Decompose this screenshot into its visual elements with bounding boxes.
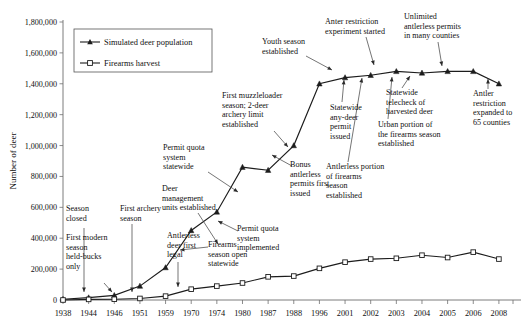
annotation-permit-quota-system-implemented: Permit quota system implemented [237,224,291,253]
legend-label-0: Simulated deer population [104,38,193,47]
y-tick-label: 600,000 [31,203,57,212]
leader-head-statewide-telecheck [406,76,410,81]
x-tick-label: 1944 [80,309,97,318]
x-tick-label: 2004 [414,309,431,318]
data-marker-square [471,250,476,255]
data-marker-square [317,266,322,271]
x-tick-label: 2001 [337,309,354,318]
leader-head-season-closed [82,288,86,292]
x-tick-label: 1996 [311,309,328,318]
data-marker-square [86,297,91,302]
y-axis-label: Number of deer [8,133,18,190]
series-line-1 [63,252,499,300]
data-marker-square [189,287,194,292]
x-tick-label: 1987 [260,309,277,318]
y-tick-label: 1,400,000 [25,80,57,89]
annotation-youth-season-established: Youth season established [262,37,320,56]
annotation-first-muzzleloader-season: First muzzleloader season; 2-deer archer… [222,91,302,129]
y-tick-label: 400,000 [31,234,57,243]
legend[interactable]: Simulated deer populationFirearms harves… [74,29,212,72]
data-marker-square [112,297,117,302]
data-marker-square [343,260,348,265]
annotation-antlerless-portion-firearms: Antlerless portion of firearms season es… [326,162,386,200]
deer-population-chart: 0200,000400,000600,000800,0001,000,0001,… [0,0,525,331]
leader-head-permit-quota-system-statewide [233,188,238,192]
data-marker-square [138,296,143,301]
x-tick-label: 1988 [285,309,302,318]
y-tick-label: 0 [53,296,57,305]
leader-head-antler-restriction-experiment [371,60,375,65]
legend-label-1: Firearms harvest [104,59,161,68]
data-marker-square [445,255,450,260]
annotation-statewide-telecheck: Statewide telecheck of harvested deer [386,88,444,117]
legend-marker-square [88,61,93,66]
x-tick-label: 2002 [362,309,379,318]
y-tick-label: 200,000 [31,265,57,274]
y-tick-label: 800,000 [31,172,57,181]
leader-head-antlerless-portion-firearms [359,78,363,83]
x-tick-label: 2008 [491,309,508,318]
x-tick-label: 1980 [234,309,251,318]
y-tick-label: 1,600,000 [25,49,57,58]
leader-head-urban-portion-firearms [390,77,394,82]
x-tick-label: 1959 [157,309,174,318]
annotation-permit-quota-system-statewide: Permit quota system statewide [163,143,213,172]
leader-head-unlimited-antlerless-permits [439,61,443,66]
x-tick-label: 1951 [132,309,149,318]
data-marker-square [240,281,245,286]
data-marker-triangle [137,283,142,288]
annotation-antler-restriction-expanded: Antler restriction expanded to 65 counti… [473,89,521,127]
x-tick-label: 2005 [439,309,456,318]
annotation-antler-restriction-experiment: Anter restriction experiment started [325,17,399,36]
annotation-deer-management-units: Deer management units established [162,184,230,213]
data-marker-square [497,257,502,262]
annotation-first-modern-season: First modern season held-bucks only [66,233,112,271]
annotation-urban-portion-firearms: Urban portion of the firearms season est… [378,120,446,149]
data-marker-square [266,275,271,280]
leader-youth-season-established [306,56,332,70]
annotation-antlerless-deer-first-legal: Antlerless deer first legal [167,231,209,260]
data-marker-square [394,256,399,261]
x-tick-label: 1970 [183,309,200,318]
y-tick-label: 1,200,000 [25,111,57,120]
x-tick-label: 1946 [106,309,123,318]
x-tick-label: 2006 [465,309,482,318]
annotation-unlimited-antlerless-permits: Unlimited antlerless permits in many cou… [404,12,476,41]
x-tick-label: 2003 [388,309,405,318]
data-marker-square [61,298,66,303]
annotation-statewide-any-deer-permit: Statewide any-deer permit issued [330,103,370,141]
data-marker-square [368,257,373,262]
leader-head-antlerless-deer-first-legal [176,283,180,287]
data-marker-square [291,274,296,279]
data-marker-triangle [240,164,245,169]
x-tick-label: 1974 [209,309,226,318]
y-tick-label: 1,000,000 [25,142,57,151]
leader-group [82,37,490,292]
x-tick-label: 1938 [55,309,72,318]
data-marker-square [215,284,220,289]
data-marker-square [163,294,168,299]
y-tick-label: 1,800,000 [25,18,57,27]
data-marker-triangle [291,143,296,148]
data-marker-square [420,253,425,258]
annotation-season-closed: Season closed [66,204,106,223]
